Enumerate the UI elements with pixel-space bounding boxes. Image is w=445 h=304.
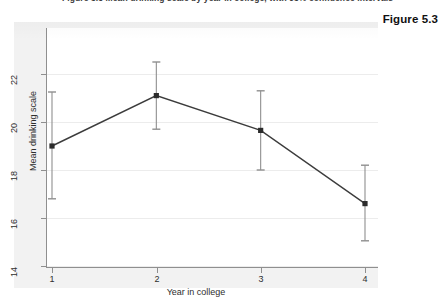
figure-number-label: Figure 5.3 [383, 13, 438, 25]
x-tick-label-3: 3 [249, 274, 273, 284]
series-line-path [52, 96, 365, 204]
chart-panel: 22 20 18 16 14 1 2 3 4 Mean drinking sca… [14, 22, 378, 288]
y-tick-label-22: 22 [9, 72, 19, 88]
data-point-marker [362, 201, 367, 206]
data-markers-group [49, 93, 367, 206]
y-tick-label-18: 18 [9, 168, 19, 184]
y-tick-label-20: 20 [9, 120, 19, 136]
y-tick-label-16: 16 [9, 216, 19, 232]
top-caption-strip: Figure 5.3 Mean drinking scale by year i… [0, 0, 445, 9]
x-tick-label-1: 1 [40, 274, 64, 284]
y-tick-mark-16 [41, 218, 46, 219]
x-tick-mark-2 [157, 268, 158, 273]
x-tick-mark-4 [365, 268, 366, 273]
error-bars-group [48, 62, 369, 241]
y-tick-mark-14 [41, 266, 46, 267]
data-point-marker [258, 128, 263, 133]
y-tick-mark-20 [41, 122, 46, 123]
y-tick-mark-22 [41, 74, 46, 75]
y-tick-mark-18 [41, 170, 46, 171]
x-tick-label-2: 2 [145, 274, 169, 284]
top-caption-text: Figure 5.3 Mean drinking scale by year i… [62, 0, 393, 3]
y-tick-label-14: 14 [9, 264, 19, 280]
x-tick-label-4: 4 [353, 274, 377, 284]
x-tick-mark-3 [261, 268, 262, 273]
data-point-marker [49, 143, 54, 148]
x-tick-mark-1 [52, 268, 53, 273]
x-axis-title: Year in college [14, 287, 378, 297]
y-axis-title: Mean drinking scale [28, 81, 38, 181]
series-layer [47, 28, 378, 268]
data-point-marker [154, 93, 159, 98]
